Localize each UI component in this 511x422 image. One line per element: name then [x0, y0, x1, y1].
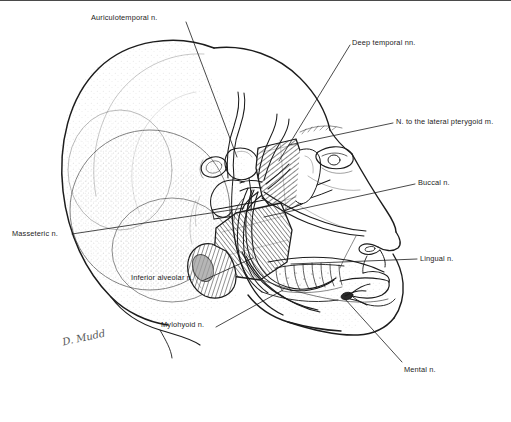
artist-signature: D. Mudd: [61, 328, 106, 348]
mental-nerve: [345, 291, 366, 296]
leader-deep-temporal: [279, 45, 350, 161]
deep-temporal-nerve-1: [258, 114, 277, 178]
mandible-shading: [263, 257, 389, 329]
parotid-region: [190, 196, 200, 244]
lateral-pterygoid-nerve: [266, 164, 289, 184]
inferior-alveolar-in-canal: [262, 292, 338, 302]
zygomatic-arch-cut-end: [212, 210, 214, 219]
leader-auriculotemporal: [186, 22, 237, 157]
nose-tip: [378, 232, 400, 251]
mylohyoid-nerve: [242, 252, 318, 310]
mandible-oblique-line: [262, 280, 388, 302]
buccal-nerve: [264, 192, 366, 231]
masseteric-nerve: [242, 192, 258, 210]
cranium-outline: [62, 40, 214, 325]
auriculotemporal-nerve: [211, 180, 244, 217]
leader-lines-layer: [0, 0, 511, 422]
figure-top-border: [0, 0, 511, 1]
eye-and-orbit: [300, 126, 360, 190]
infraorbital-cheek: [308, 176, 360, 190]
eyebrow-hatch: [302, 126, 336, 134]
skull-stipple-accent: [142, 172, 202, 280]
eyebrow: [300, 126, 342, 132]
leader-inferior-alveolar: [202, 258, 253, 281]
label-nerve-to-lateral-pterygoid-muscle: N. to the lateral pterygoid m.: [396, 117, 493, 126]
zygomatic-arch: [212, 180, 330, 210]
muscle-cut-belly: [188, 244, 236, 298]
mandible: [232, 213, 403, 335]
skull-group: [55, 40, 403, 358]
nerve-branches: [211, 92, 370, 312]
mandibular-trunk: [240, 181, 262, 183]
mandible-angle: [248, 295, 341, 331]
lower-lip: [352, 282, 389, 298]
lateral-pterygoid-muscle: [256, 139, 305, 214]
masseteric-nerve-2: [246, 195, 262, 213]
label-mental-nerve: Mental n.: [404, 365, 436, 374]
labiomental-fold: [352, 296, 395, 306]
leader-buccal: [264, 184, 415, 217]
mandibular-condyle: [225, 148, 258, 213]
nasal-ala: [380, 250, 385, 267]
mandible-ramus-posterior: [232, 213, 283, 315]
lateral-pterygoid-nerve-2: [268, 169, 290, 189]
auriculotemporal-ascending-2: [233, 93, 245, 179]
nasal-dorsum: [352, 154, 396, 232]
pterygoid-tendon-tab: [296, 149, 321, 204]
cheek-contour: [300, 206, 354, 230]
glabella-nasion: [330, 130, 352, 154]
nasolabial-fold: [340, 236, 356, 268]
upper-lip: [363, 272, 389, 282]
leader-lingual: [291, 259, 417, 264]
temporal-fossa-boundary: [132, 92, 196, 214]
lower-lid-crease: [322, 168, 352, 173]
philtrum: [363, 256, 367, 273]
lingual-nerve: [246, 190, 334, 291]
auriculotemporal-ascending: [227, 92, 239, 178]
mandible-alveolar-border: [268, 257, 384, 272]
mylohyoid-nerve-2: [246, 256, 320, 312]
inferior-alveolar-nerve-2: [243, 190, 268, 293]
medial-pterygoid-muscle: [214, 203, 292, 280]
face-profile: [214, 47, 400, 306]
leader-lateral-pterygoid: [289, 123, 393, 145]
mandible-chin-contour: [393, 254, 403, 318]
label-inferior-alveolar-nerve: Inferior alveolar n.: [131, 273, 193, 282]
label-mylohyoid-nerve: Mylohyoid n.: [161, 320, 204, 329]
mandibular-trunk-2: [240, 188, 262, 191]
anatomy-drawing-layer: [0, 0, 511, 422]
label-lingual-nerve: Lingual n.: [420, 254, 454, 263]
coronoid-process: [261, 158, 272, 248]
mandible-inferior-border: [288, 318, 394, 335]
tooth-socket-speckle: [280, 273, 337, 286]
external-acoustic-meatus: [199, 154, 230, 180]
leader-mental: [345, 299, 402, 362]
leader-mylohyoid: [216, 290, 283, 327]
label-deep-temporal-nerves: Deep temporal nn.: [352, 38, 415, 47]
deep-temporal-nerve-2: [264, 119, 289, 180]
temporal-line: [94, 54, 204, 196]
mental-foramen: [340, 291, 353, 301]
inferior-alveolar-nerve: [237, 188, 262, 292]
mandibular-teeth-roots: [276, 263, 344, 293]
leader-masseteric: [72, 208, 244, 234]
label-auriculotemporal-nerve: Auriculotemporal n.: [91, 13, 158, 22]
chorda-tympani: [234, 198, 244, 220]
nostril: [359, 244, 380, 254]
nostril-opening: [365, 246, 376, 252]
mouth-line: [340, 278, 389, 282]
cranium-shading: [55, 40, 265, 330]
mastoid-tip: [160, 330, 172, 358]
mental-nerve-branch-1: [352, 284, 370, 293]
anatomical-figure: Auriculotemporal n. Deep temporal nn. N.…: [0, 0, 511, 422]
mental-nerve-branch-2: [350, 299, 367, 305]
forehead-brow: [214, 47, 330, 130]
lingual-nerve-2: [252, 192, 336, 289]
buccal-nerve-2: [262, 198, 364, 236]
label-masseteric-nerve: Masseteric n.: [12, 229, 58, 238]
label-buccal-nerve: Buccal n.: [418, 178, 450, 187]
zygomatic-arch-lower: [214, 190, 332, 219]
